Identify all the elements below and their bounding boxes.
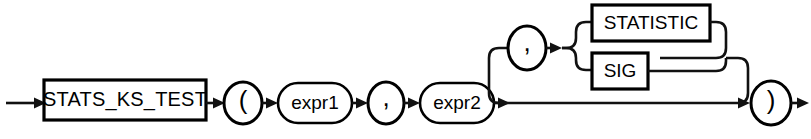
- arrowhead-expr2: [408, 98, 420, 109]
- rail-expr1-to-comma1: [352, 98, 368, 109]
- arrowhead-fork: [550, 43, 562, 54]
- exit-arrowhead: [797, 98, 809, 109]
- node-open-paren[interactable]: (: [224, 82, 262, 124]
- expr2-label: expr2: [433, 92, 481, 113]
- node-close-paren[interactable]: ): [751, 81, 791, 125]
- close-paren-label: ): [767, 85, 776, 115]
- comma1-label: ,: [382, 82, 389, 112]
- node-expr1[interactable]: expr1: [278, 83, 352, 123]
- arrowhead-comma1: [356, 98, 368, 109]
- node-expr2[interactable]: expr2: [420, 83, 494, 123]
- sig-label: SIG: [604, 60, 637, 81]
- rail-to-close-paren: [738, 98, 750, 109]
- entry-rail: [6, 98, 46, 109]
- node-option-sig[interactable]: SIG: [592, 53, 648, 89]
- node-option-statistic[interactable]: STATISTIC: [592, 5, 710, 41]
- node-comma-2[interactable]: ,: [508, 26, 546, 70]
- function-name-label: STATS_KS_TEST: [43, 88, 207, 111]
- rail-open-paren-to-expr1: [262, 98, 278, 109]
- syntax-diagram-canvas: STATS_KS_TEST ( expr1 ,: [0, 0, 811, 139]
- arrowhead-close-paren: [738, 98, 750, 109]
- exit-rail: [791, 98, 809, 109]
- comma2-label: ,: [523, 27, 530, 57]
- node-comma-1[interactable]: ,: [368, 82, 404, 124]
- choice-fork-left: [562, 22, 592, 70]
- arrowhead-expr1: [266, 98, 278, 109]
- railroad-diagram: STATS_KS_TEST ( expr1 ,: [0, 0, 811, 139]
- open-paren-label: (: [239, 85, 248, 115]
- statistic-label: STATISTIC: [604, 12, 698, 33]
- expr1-label: expr1: [291, 92, 339, 113]
- rail-func-to-open-paren: [206, 98, 225, 109]
- rail-comma1-to-expr2: [404, 98, 420, 109]
- rail-comma2-to-fork: [546, 43, 562, 54]
- node-function-name[interactable]: STATS_KS_TEST: [43, 80, 207, 120]
